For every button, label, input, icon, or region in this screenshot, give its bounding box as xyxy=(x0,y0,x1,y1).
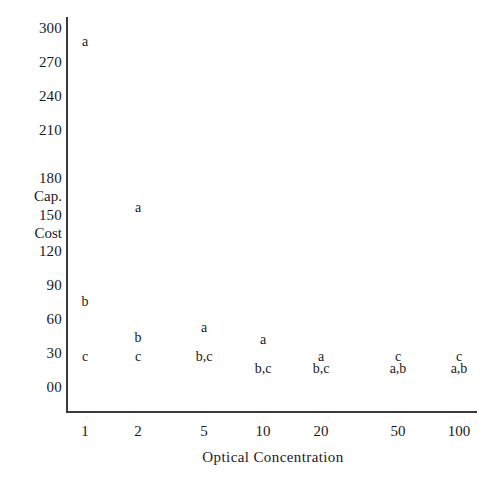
y-axis-title-word-1: Cap. xyxy=(18,189,62,204)
x-axis-title: Optical Concentration xyxy=(202,449,343,465)
y-tick-label: 240 xyxy=(18,89,62,104)
x-tick-label: 5 xyxy=(200,424,208,439)
data-point-marker: b,c xyxy=(313,362,330,376)
data-point-marker: a xyxy=(82,35,88,49)
y-tick-label: 150 xyxy=(18,208,62,223)
data-point-marker: a,b xyxy=(390,362,407,376)
y-tick-label: 180 xyxy=(18,171,62,186)
y-tick-label: 30 xyxy=(18,346,62,361)
data-point-marker: b,c xyxy=(255,362,272,376)
data-point-marker: b xyxy=(135,331,142,345)
y-axis-tick-labels: 300 270 240 210 180 Cap. 150 Cost 120 90… xyxy=(0,0,62,484)
y-tick-label: 210 xyxy=(18,123,62,138)
y-tick-label: 60 xyxy=(18,312,62,327)
y-tick-label: 300 xyxy=(18,21,62,36)
y-axis-title-word-2: Cost xyxy=(18,226,62,241)
data-point-marker: a xyxy=(201,321,207,335)
data-point-marker: c xyxy=(82,350,88,364)
x-tick-label: 20 xyxy=(314,424,329,439)
x-axis-line xyxy=(66,411,477,413)
y-tick-label: 120 xyxy=(18,244,62,259)
x-tick-label: 50 xyxy=(391,424,406,439)
x-tick-label: 10 xyxy=(256,424,271,439)
y-axis-line xyxy=(66,17,68,413)
data-point-marker: a xyxy=(260,333,266,347)
x-tick-label: 2 xyxy=(134,424,142,439)
y-tick-label: 00 xyxy=(18,380,62,395)
data-point-marker: b,c xyxy=(196,350,213,364)
x-tick-label: 1 xyxy=(81,424,89,439)
data-point-marker: a xyxy=(135,201,141,215)
data-point-marker: a,b xyxy=(451,362,468,376)
data-point-marker: b xyxy=(82,295,89,309)
data-point-marker: c xyxy=(135,350,141,364)
y-tick-label: 270 xyxy=(18,55,62,70)
y-tick-label: 90 xyxy=(18,278,62,293)
scatter-chart-figure: 300 270 240 210 180 Cap. 150 Cost 120 90… xyxy=(0,0,491,484)
x-tick-label: 100 xyxy=(448,424,471,439)
